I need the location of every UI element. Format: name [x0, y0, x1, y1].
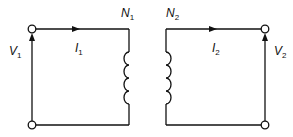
arrowhead-i1-icon [72, 26, 80, 32]
secondary-terminal-top [261, 25, 269, 33]
arrowhead-v2-icon [262, 33, 268, 41]
label-n2: N2 [166, 6, 180, 22]
label-n1: N1 [121, 6, 135, 22]
secondary-coil-icon [166, 52, 171, 104]
label-v2: V2 [274, 44, 287, 60]
label-i1: I1 [75, 41, 83, 57]
arrowhead-i2-icon [209, 26, 217, 32]
primary-terminal-bottom [28, 121, 36, 129]
label-i2: I2 [212, 41, 220, 57]
secondary-terminal-bottom [261, 121, 269, 129]
primary-terminal-top [28, 25, 36, 33]
primary-circuit [28, 25, 129, 129]
label-v1: V1 [9, 44, 22, 60]
secondary-circuit [166, 25, 269, 129]
transformer-diagram: V1 I1 N1 N2 I2 V2 [0, 0, 293, 137]
primary-coil-icon [124, 52, 129, 104]
arrowhead-v1-icon [29, 33, 35, 41]
